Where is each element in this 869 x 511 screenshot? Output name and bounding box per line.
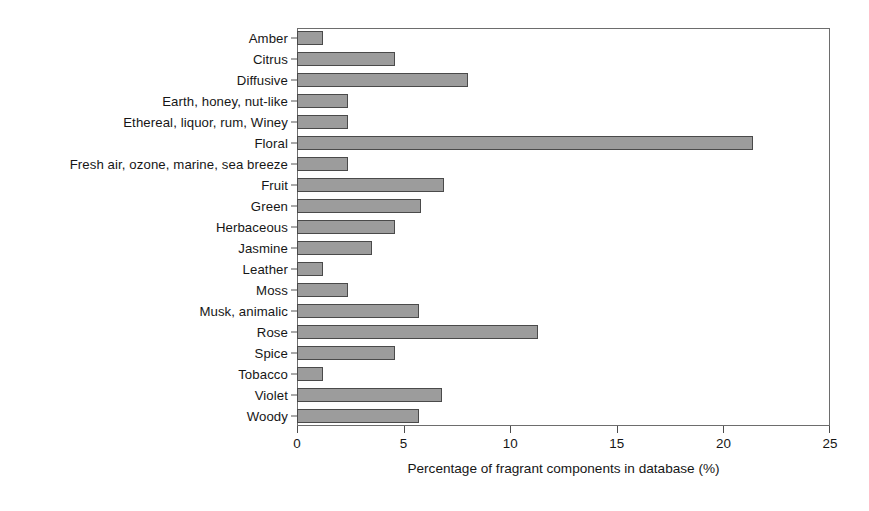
category-label: Woody	[247, 408, 288, 423]
category-label: Violet	[255, 387, 288, 402]
bar	[297, 346, 395, 360]
bar-chart: AmberCitrusDiffusiveEarth, honey, nut-li…	[0, 0, 869, 511]
category-label: Jasmine	[238, 240, 288, 255]
x-tick-mark	[297, 426, 298, 433]
category-label: Amber	[249, 31, 288, 46]
bar	[297, 136, 753, 150]
bar	[297, 388, 442, 402]
x-axis-title: Percentage of fragrant components in dat…	[297, 461, 830, 476]
category-label: Fresh air, ozone, marine, sea breeze	[70, 157, 288, 172]
category-label: Fruit	[261, 178, 288, 193]
category-label: Citrus	[253, 52, 288, 67]
category-label: Ethereal, liquor, rum, Winey	[123, 115, 288, 130]
x-tick-label: 5	[400, 436, 407, 451]
bar	[297, 31, 323, 45]
bar	[297, 241, 372, 255]
bar-row: Tobacco	[297, 363, 830, 384]
category-label: Earth, honey, nut-like	[162, 94, 288, 109]
x-tick-label: 20	[716, 436, 731, 451]
x-tick-label: 0	[293, 436, 300, 451]
bar-row: Violet	[297, 384, 830, 405]
bar-row: Moss	[297, 279, 830, 300]
category-label: Diffusive	[237, 73, 288, 88]
bar	[297, 220, 395, 234]
bar-row: Green	[297, 196, 830, 217]
category-label: Spice	[255, 345, 289, 360]
x-tick-label: 25	[823, 436, 838, 451]
bar	[297, 157, 348, 171]
x-tick-mark	[829, 426, 830, 433]
bar-row: Herbaceous	[297, 217, 830, 238]
bar-row: Jasmine	[297, 237, 830, 258]
bar-row: Ethereal, liquor, rum, Winey	[297, 112, 830, 133]
bar-row: Fruit	[297, 175, 830, 196]
bar-row: Diffusive	[297, 70, 830, 91]
category-label: Tobacco	[238, 366, 288, 381]
bar	[297, 199, 421, 213]
bar	[297, 73, 468, 87]
category-label: Rose	[257, 324, 288, 339]
bar	[297, 409, 419, 423]
bar-row: Rose	[297, 321, 830, 342]
bar	[297, 367, 323, 381]
x-tick-mark	[617, 426, 618, 433]
category-label: Herbaceous	[216, 219, 288, 234]
bar	[297, 52, 395, 66]
bar-row: Amber	[297, 28, 830, 49]
bar-row: Citrus	[297, 49, 830, 70]
category-label: Moss	[256, 282, 288, 297]
x-tick-label: 10	[503, 436, 518, 451]
bar	[297, 94, 348, 108]
bar-rows-layer: AmberCitrusDiffusiveEarth, honey, nut-li…	[297, 28, 830, 426]
bar-row: Earth, honey, nut-like	[297, 91, 830, 112]
bar-row: Spice	[297, 342, 830, 363]
x-tick-label: 15	[609, 436, 624, 451]
category-label: Floral	[254, 136, 288, 151]
bar-row: Leather	[297, 258, 830, 279]
category-label: Green	[251, 199, 288, 214]
bar-row: Fresh air, ozone, marine, sea breeze	[297, 154, 830, 175]
bar-row: Woody	[297, 405, 830, 426]
x-tick-mark	[510, 426, 511, 433]
bar	[297, 304, 419, 318]
bar	[297, 178, 444, 192]
x-tick-mark	[723, 426, 724, 433]
bar	[297, 325, 538, 339]
bar	[297, 262, 323, 276]
bar	[297, 283, 348, 297]
x-tick-mark	[404, 426, 405, 433]
bar-row: Musk, animalic	[297, 300, 830, 321]
bar	[297, 115, 348, 129]
bar-row: Floral	[297, 133, 830, 154]
category-label: Leather	[243, 261, 288, 276]
category-label: Musk, animalic	[199, 303, 288, 318]
